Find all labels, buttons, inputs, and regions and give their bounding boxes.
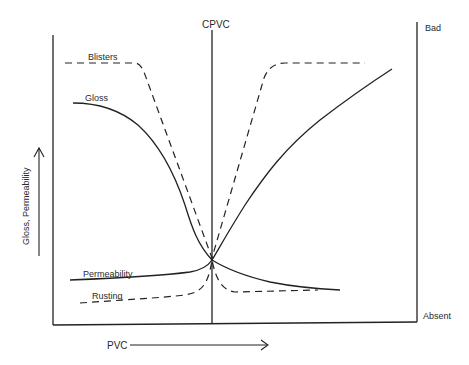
bottom-axis [53, 322, 417, 325]
absent-label: Absent [423, 311, 452, 321]
bad-label: Bad [425, 23, 441, 33]
permeability-label: Permeability [83, 269, 133, 279]
gloss-curve [73, 69, 392, 260]
gloss-label: Gloss [85, 93, 109, 103]
rusting-label: Rusting [92, 291, 123, 301]
y-axis-label: Gloss, Permeability [21, 167, 31, 245]
cpvc-label: CPVC [202, 19, 230, 30]
blisters-label: Blisters [88, 52, 118, 62]
blisters-curve [65, 63, 365, 258]
x-axis-label: PVC [107, 340, 128, 351]
pvc-property-diagram: CPVC Bad Absent Blisters Gloss Permeabil… [0, 0, 469, 365]
